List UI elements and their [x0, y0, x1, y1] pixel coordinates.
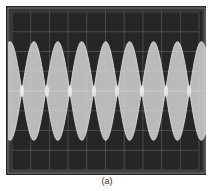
figure-caption: (a): [0, 176, 214, 186]
waveform-plot: [0, 0, 214, 191]
